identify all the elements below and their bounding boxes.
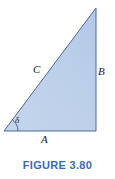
triangle-shape [4,8,96,131]
figure-container: C B A δ FIGURE 3.80 [0,0,115,179]
angle-label-delta: δ [15,116,19,125]
figure-caption: FIGURE 3.80 [23,159,92,171]
figure-caption-bar: FIGURE 3.80 [0,150,115,179]
side-label-vertical: B [98,66,105,77]
side-label-hypotenuse: C [33,64,40,75]
side-label-base: A [41,134,48,145]
triangle-diagram: C B A δ [0,0,115,150]
